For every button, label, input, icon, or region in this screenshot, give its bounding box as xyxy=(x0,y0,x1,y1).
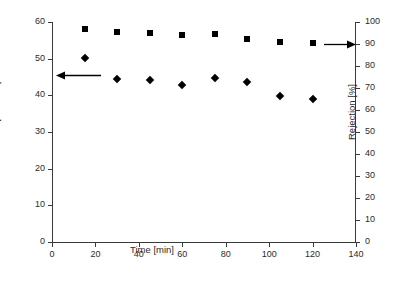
y-axis-left-tick xyxy=(48,205,52,206)
y-axis-left-tick xyxy=(48,132,52,133)
y-axis-left-tick-label: 10 xyxy=(35,200,45,209)
x-axis-tick-label: 0 xyxy=(37,250,67,259)
y-axis-right-tick-label: 40 xyxy=(365,149,375,158)
x-axis-tick-label: 80 xyxy=(211,250,241,259)
y-axis-right-tick-label: 60 xyxy=(365,105,375,114)
data-point-flux xyxy=(178,81,186,89)
x-axis-tick xyxy=(182,243,183,247)
data-point-flux xyxy=(243,78,251,86)
data-point-flux xyxy=(211,74,219,82)
y-axis-right-tick xyxy=(356,176,360,177)
data-point-rejection xyxy=(179,32,185,38)
data-point-rejection xyxy=(212,31,218,37)
x-axis-tick-label: 20 xyxy=(80,250,110,259)
x-axis-tick xyxy=(95,243,96,247)
y-axis-right-tick xyxy=(356,220,360,221)
y-axis-left-tick-label: 40 xyxy=(35,90,45,99)
y-axis-right-tick xyxy=(356,198,360,199)
y-axis-right-tick-label: 50 xyxy=(365,127,375,136)
y-axis-right-tick xyxy=(356,22,360,23)
y-axis-left-tick-label: 60 xyxy=(35,17,45,26)
data-point-rejection xyxy=(147,30,153,36)
y-axis-right-tick xyxy=(356,66,360,67)
y-axis-right-tick-label: 30 xyxy=(365,171,375,180)
y-axis-left-tick-label: 20 xyxy=(35,164,45,173)
chart-figure: 0102030405060 0102030405060708090100 020… xyxy=(0,0,413,289)
y-axis-right-tick-label: 80 xyxy=(365,61,375,70)
y-axis-left-title: Flux [L m-2 h-1] xyxy=(0,82,1,143)
data-point-flux xyxy=(113,75,121,83)
y-axis-right-title-text: Rejection [%] xyxy=(346,84,357,140)
y-axis-left-tick-label: 30 xyxy=(35,127,45,136)
y-axis-right-tick-label: 100 xyxy=(365,17,380,26)
x-axis-tick xyxy=(52,243,53,247)
arrow-left-icon xyxy=(56,70,102,81)
y-axis-right-title: Rejection [%] xyxy=(347,84,357,140)
y-axis-left-line xyxy=(52,22,53,243)
y-axis-left-tick xyxy=(48,169,52,170)
y-axis-right-tick xyxy=(356,154,360,155)
y-axis-right-tick-label: 70 xyxy=(365,83,375,92)
x-axis-tick-label: 140 xyxy=(341,250,371,259)
y-axis-right-tick-label: 0 xyxy=(365,237,370,246)
y-axis-left-tick-label: 50 xyxy=(35,54,45,63)
x-axis-tick xyxy=(269,243,270,247)
data-point-flux xyxy=(145,76,153,84)
y-axis-left-tick xyxy=(48,95,52,96)
y-axis-left-tick-label: 0 xyxy=(40,237,45,246)
data-point-rejection xyxy=(82,26,88,32)
y-axis-left-title-text: Flux [L m-2 h-1] xyxy=(0,82,1,143)
y-axis-left-tick xyxy=(48,59,52,60)
data-point-rejection xyxy=(277,39,283,45)
data-point-rejection xyxy=(244,36,250,42)
x-axis-tick xyxy=(226,243,227,247)
y-axis-right-tick-label: 10 xyxy=(365,215,375,224)
x-axis-line xyxy=(52,242,356,243)
y-axis-right-tick-label: 90 xyxy=(365,39,375,48)
x-axis-tick xyxy=(313,243,314,247)
arrow-right-icon xyxy=(324,39,356,50)
x-axis-tick-label: 120 xyxy=(298,250,328,259)
y-axis-left-tick xyxy=(48,22,52,23)
plot-area xyxy=(52,22,356,242)
x-axis-title: Time [min] xyxy=(130,245,174,255)
data-point-flux xyxy=(276,92,284,100)
data-point-flux xyxy=(80,53,88,61)
x-axis-tick xyxy=(356,243,357,247)
y-axis-right-tick xyxy=(356,44,360,45)
data-point-rejection xyxy=(114,29,120,35)
data-point-rejection xyxy=(310,40,316,46)
data-point-flux xyxy=(308,95,316,103)
x-axis-title-text: Time [min] xyxy=(130,244,174,255)
x-axis-tick-label: 100 xyxy=(254,250,284,259)
y-axis-right-tick-label: 20 xyxy=(365,193,375,202)
